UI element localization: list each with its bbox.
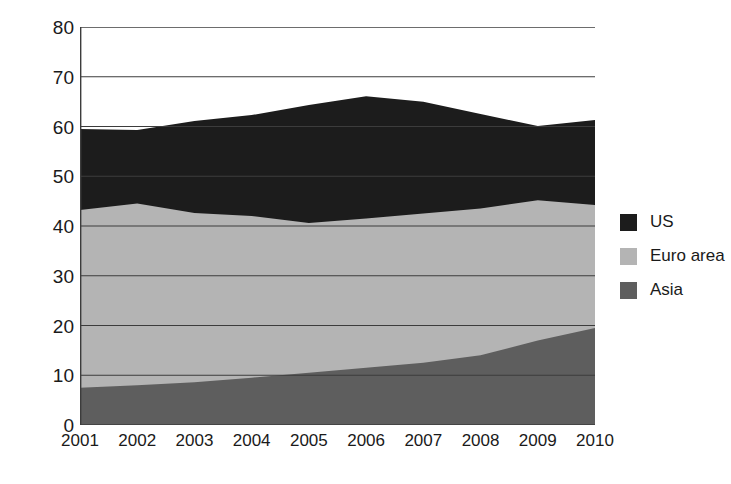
y-tick-label: 30 <box>30 266 74 285</box>
chart-legend: USEuro areaAsia <box>620 205 728 307</box>
legend-item-asia[interactable]: Asia <box>620 273 728 307</box>
legend-swatch-icon <box>620 248 637 265</box>
y-tick-label: 20 <box>30 316 74 335</box>
plot-area <box>80 27 595 425</box>
x-tick-label: 2007 <box>404 432 442 449</box>
legend-swatch-icon <box>620 282 637 299</box>
x-tick-label: 2001 <box>61 432 99 449</box>
legend-swatch-icon <box>620 214 637 231</box>
x-tick-label: 2002 <box>118 432 156 449</box>
x-tick-label: 2004 <box>233 432 271 449</box>
y-tick-label: 40 <box>30 217 74 236</box>
legend-item-us[interactable]: US <box>620 205 728 239</box>
x-tick-label: 2008 <box>462 432 500 449</box>
y-axis-tick-labels: 01020304050607080 <box>30 0 74 484</box>
legend-label: Asia <box>650 280 683 300</box>
x-tick-label: 2009 <box>519 432 557 449</box>
area-chart: % Africa Exports 01020304050607080 20012… <box>0 0 731 484</box>
y-tick-label: 80 <box>30 18 74 37</box>
y-tick-label: 50 <box>30 167 74 186</box>
legend-label: US <box>650 212 674 232</box>
y-tick-label: 70 <box>30 67 74 86</box>
legend-item-euro-area[interactable]: Euro area <box>620 239 728 273</box>
x-axis-tick-labels: 2001200220032004200520062007200820092010 <box>80 432 595 458</box>
y-tick-label: 60 <box>30 117 74 136</box>
plot-svg <box>80 27 595 425</box>
y-tick-label: 10 <box>30 366 74 385</box>
x-tick-label: 2003 <box>176 432 214 449</box>
x-tick-label: 2006 <box>347 432 385 449</box>
x-tick-label: 2010 <box>576 432 614 449</box>
x-tick-label: 2005 <box>290 432 328 449</box>
legend-label: Euro area <box>650 246 725 266</box>
